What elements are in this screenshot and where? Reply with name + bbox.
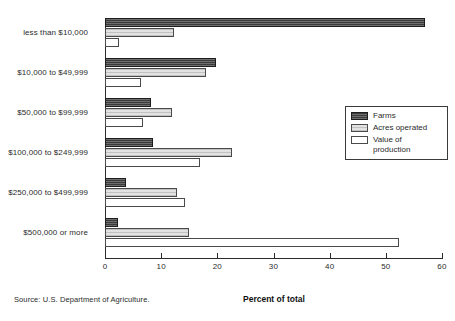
bar: [105, 78, 141, 87]
legend-label-farms: Farms: [373, 111, 396, 121]
x-axis-tick-label: 0: [103, 262, 108, 271]
bar: [105, 218, 118, 227]
bar-group: $500,000 or more: [105, 218, 442, 258]
category-label: less than $10,000: [23, 28, 88, 37]
source-note: Source: U.S. Department of Agriculture.: [14, 295, 150, 304]
bar-group: $10,000 to $49,999: [105, 58, 442, 98]
bar: [105, 108, 172, 117]
legend-item-value-of-production: Value of production: [351, 135, 443, 155]
bar: [105, 138, 153, 147]
legend-label-value-of-production: Value of production: [373, 135, 410, 155]
category-axis-line: [105, 258, 443, 259]
bar: [105, 118, 143, 127]
legend-item-farms: Farms: [351, 111, 443, 121]
bar: [105, 18, 425, 27]
bar-group: $250,000 to $499,999: [105, 178, 442, 218]
legend-label-acres-operated: Acres operated: [373, 123, 427, 133]
category-label: $250,000 to $499,999: [8, 188, 88, 197]
bar: [105, 28, 174, 37]
bar-chart-figure: 0102030405060 less than $10,000$10,000 t…: [0, 0, 455, 321]
category-label: $50,000 to $99,999: [17, 108, 88, 117]
bar: [105, 228, 189, 237]
bar: [105, 198, 185, 207]
x-axis-tick-label: 50: [381, 262, 390, 271]
category-label: $500,000 or more: [23, 228, 88, 237]
x-axis-tick-label: 60: [437, 262, 446, 271]
legend-swatch-value-of-production-icon: [351, 136, 368, 144]
bar: [105, 68, 206, 77]
x-axis-tick-label: 20: [213, 262, 222, 271]
x-axis-tick-label: 30: [269, 262, 278, 271]
bar: [105, 38, 119, 47]
legend-swatch-farms-icon: [351, 112, 368, 120]
category-label: $10,000 to $49,999: [17, 68, 88, 77]
bar: [105, 98, 151, 107]
x-axis-tick-mark: [442, 253, 443, 258]
x-axis-tick-label: 40: [325, 262, 334, 271]
bar: [105, 238, 399, 247]
category-label: $100,000 to $249,999: [8, 148, 88, 157]
bar: [105, 188, 177, 197]
legend-item-acres-operated: Acres operated: [351, 123, 443, 133]
bar: [105, 158, 200, 167]
bar: [105, 178, 126, 187]
bar: [105, 58, 216, 67]
bar: [105, 148, 232, 157]
legend-swatch-acres-operated-icon: [351, 124, 368, 132]
x-axis-title: Percent of total: [243, 294, 305, 304]
x-axis-tick-label: 10: [157, 262, 166, 271]
bar-group: less than $10,000: [105, 18, 442, 58]
chart-legend: Farms Acres operated Value of production: [345, 106, 448, 160]
